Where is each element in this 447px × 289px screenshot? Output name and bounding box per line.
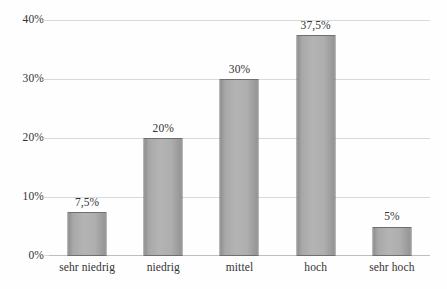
bar-value-sehr-hoch: 5%: [384, 211, 400, 223]
y-tick-label-40: 40%: [0, 14, 44, 26]
bar-hoch[interactable]: [296, 35, 335, 256]
bar-sehr-niedrig[interactable]: [68, 212, 107, 256]
y-tick-label-20: 20%: [0, 132, 44, 144]
bar-value-hoch: 37,5%: [301, 20, 331, 32]
y-tick-label-0: 0%: [0, 250, 44, 262]
bar-mittel[interactable]: [220, 79, 259, 256]
y-tick-label-10: 10%: [0, 191, 44, 203]
bar-value-sehr-niedrig: 7,5%: [75, 197, 99, 209]
bar-sehr-hoch[interactable]: [372, 227, 411, 257]
plot-area: 7,5% 20% 30% 37,5% 5%: [49, 20, 430, 256]
bar-slot-sehr-hoch: 5%: [354, 20, 430, 256]
bar-chart: 40% 30% 20% 10% 0% 7,5% 20%: [0, 0, 447, 289]
bar-slot-sehr-niedrig: 7,5%: [49, 20, 125, 256]
bar-value-mittel: 30%: [229, 64, 250, 76]
bar-slot-mittel: 30%: [201, 20, 277, 256]
bar-value-niedrig: 20%: [153, 123, 174, 135]
y-axis: 40% 30% 20% 10% 0%: [0, 0, 44, 289]
x-tick-label-mittel: mittel: [201, 261, 277, 274]
x-axis: sehr niedrig niedrig mittel hoch sehr ho…: [49, 261, 430, 281]
x-tick-label-hoch: hoch: [278, 261, 354, 274]
bar-slot-hoch: 37,5%: [278, 20, 354, 256]
bar-slot-niedrig: 20%: [125, 20, 201, 256]
bar-niedrig[interactable]: [144, 138, 183, 256]
x-tick-label-niedrig: niedrig: [125, 261, 201, 274]
y-tick-label-30: 30%: [0, 73, 44, 85]
x-tick-label-sehr-niedrig: sehr niedrig: [49, 261, 125, 274]
x-tick-label-sehr-hoch: sehr hoch: [354, 261, 430, 274]
